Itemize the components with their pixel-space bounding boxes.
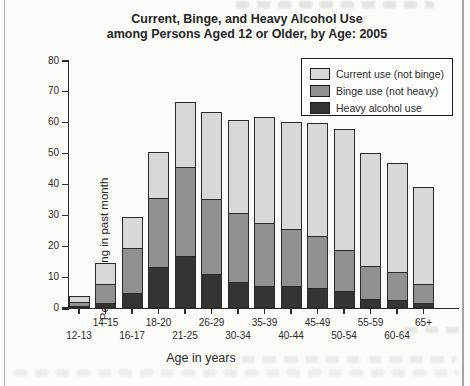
bar-30-34 — [228, 120, 249, 308]
bar-segment-heavy — [148, 267, 169, 308]
scan-bleedthrough-artifact — [242, 356, 456, 363]
legend-label: Heavy alcohol use — [336, 102, 422, 114]
x-axis-tick — [211, 308, 212, 314]
legend-swatch — [310, 85, 330, 97]
bar-segment-binge — [201, 199, 222, 275]
y-axis-tick-label: 0 — [33, 303, 59, 313]
bar-segment-current — [254, 117, 275, 224]
legend-item: Binge use (not heavy) — [310, 83, 452, 99]
bar-segment-current — [95, 263, 116, 285]
x-axis-tick — [396, 308, 397, 314]
bar-segment-binge — [413, 284, 434, 304]
y-axis-tick — [62, 122, 69, 123]
x-axis-label-12-13: 12-13 — [57, 330, 101, 341]
y-axis-tick — [62, 246, 69, 247]
x-axis-label-16-17: 16-17 — [110, 330, 154, 341]
bar-65+ — [413, 187, 434, 308]
scan-bleedthrough-artifact — [236, 1, 434, 8]
bar-35-39 — [254, 117, 275, 308]
y-axis-tick-label: 30 — [33, 210, 59, 220]
x-axis-tick — [78, 308, 79, 314]
y-axis-tick — [62, 60, 69, 61]
x-axis-label-50-54: 50-54 — [322, 330, 366, 341]
bar-40-44 — [281, 122, 302, 308]
legend-item: Heavy alcohol use — [310, 100, 452, 116]
x-axis-tick — [423, 308, 424, 314]
y-axis-tick — [62, 153, 69, 154]
bar-18-20 — [148, 152, 169, 308]
x-axis-label-65+: 65+ — [402, 317, 446, 328]
bar-segment-binge — [281, 229, 302, 288]
bar-segment-binge — [148, 198, 169, 268]
y-axis-tick-label: 10 — [33, 272, 59, 282]
x-axis-tick — [105, 308, 106, 314]
bar-14-15 — [95, 263, 116, 308]
y-axis-tick — [62, 215, 69, 216]
y-axis-tick — [62, 184, 69, 185]
x-axis-label-35-39: 35-39 — [243, 317, 287, 328]
bar-segment-binge — [175, 167, 196, 257]
y-axis-tick-label: 40 — [33, 179, 59, 189]
bar-segment-heavy — [360, 299, 381, 308]
bar-segment-binge — [360, 266, 381, 300]
x-axis-tick — [370, 308, 371, 314]
x-axis-label-21-25: 21-25 — [163, 330, 207, 341]
x-axis-label-14-15: 14-15 — [84, 317, 128, 328]
bar-segment-current — [334, 129, 355, 251]
bar-60-64 — [387, 163, 408, 308]
legend-swatch — [310, 68, 330, 80]
bar-segment-heavy — [122, 293, 143, 308]
bar-segment-current — [387, 163, 408, 273]
x-axis-tick — [317, 308, 318, 314]
bar-26-29 — [201, 112, 222, 308]
x-axis-tick — [343, 308, 344, 314]
bar-segment-binge — [95, 284, 116, 303]
scan-left-edge-line — [4, 0, 5, 386]
bar-segment-current — [281, 122, 302, 230]
bar-55-59 — [360, 153, 381, 308]
bar-segment-binge — [334, 250, 355, 292]
x-axis-label-55-59: 55-59 — [349, 317, 393, 328]
bar-segment-heavy — [201, 274, 222, 308]
bar-segment-current — [360, 153, 381, 267]
bar-segment-current — [148, 152, 169, 198]
bar-segment-heavy — [228, 282, 249, 308]
bar-12-13 — [69, 296, 90, 308]
y-axis-tick-label: 70 — [33, 86, 59, 96]
bar-segment-heavy — [307, 288, 328, 308]
x-axis-tick — [184, 308, 185, 314]
chart-title-line1: Current, Binge, and Heavy Alcohol Use — [27, 12, 467, 27]
bar-45-49 — [307, 123, 328, 308]
bar-16-17 — [122, 217, 143, 308]
x-axis-label-26-29: 26-29 — [190, 317, 234, 328]
bar-50-54 — [334, 129, 355, 308]
y-axis-tick — [62, 91, 69, 92]
bar-segment-heavy — [334, 291, 355, 308]
x-axis-tick — [131, 308, 132, 314]
scan-bleedthrough-artifact — [14, 369, 458, 376]
x-axis-label-40-44: 40-44 — [269, 330, 313, 341]
x-axis-label-18-20: 18-20 — [137, 317, 181, 328]
bar-segment-binge — [307, 236, 328, 288]
bar-segment-current — [413, 187, 434, 286]
bar-segment-current — [201, 112, 222, 200]
x-axis-tick — [237, 308, 238, 314]
bar-segment-current — [175, 102, 196, 168]
legend-swatch — [310, 102, 330, 114]
bar-segment-heavy — [387, 300, 408, 308]
x-axis-label-45-49: 45-49 — [296, 317, 340, 328]
y-axis-tick-label: 80 — [33, 56, 59, 66]
bar-segment-binge — [254, 223, 275, 288]
chart-title-line2: among Persons Aged 12 or Older, by Age: … — [27, 27, 467, 42]
legend-label: Current use (not binge) — [336, 68, 444, 80]
x-axis-tick — [264, 308, 265, 314]
legend-item: Current use (not binge) — [310, 66, 452, 82]
chart-legend: Current use (not binge)Binge use (not he… — [301, 58, 453, 116]
legend-label: Binge use (not heavy) — [336, 85, 438, 97]
bar-21-25 — [175, 102, 196, 308]
x-axis-label-30-34: 30-34 — [216, 330, 260, 341]
bar-segment-current — [228, 120, 249, 214]
chart-title: Current, Binge, and Heavy Alcohol Use am… — [27, 12, 467, 42]
bar-segment-heavy — [281, 286, 302, 308]
x-axis-tick — [158, 308, 159, 314]
